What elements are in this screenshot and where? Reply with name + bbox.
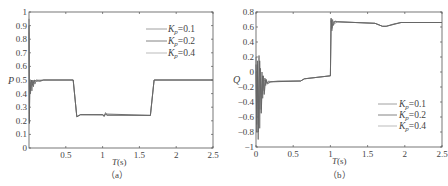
y-tick-label: 0.8 (16, 34, 28, 44)
x-tick-label: 1.5 (134, 150, 146, 160)
y-tick-label: 0.4 (16, 89, 28, 99)
y-tick-label: 0.1 (16, 129, 27, 139)
chart-b-legend: Kp=0.1 Kp=0.2 Kp=0.4 (378, 99, 426, 133)
y-tick-label: 0.5 (16, 75, 28, 85)
y-tick-label: 0 (23, 143, 28, 153)
chart-b-y-label: Q (233, 74, 241, 85)
legend-label-kp-0.1: Kp=0.1 (167, 24, 195, 36)
y-tick-label: −1 (244, 142, 254, 152)
x-tick-label: 2 (403, 149, 408, 159)
chart-b-x-axis: 00.511.522.5 (254, 12, 448, 159)
chart-a-caption: （a） (106, 170, 128, 180)
y-tick-label: 0.2 (243, 52, 254, 62)
legend-label-kp-0.4: Kp=0.4 (398, 121, 426, 133)
x-tick-label: 0.5 (288, 149, 300, 159)
x-tick-label: 0.5 (60, 150, 72, 160)
y-tick-label: −0.4 (238, 97, 255, 107)
chart-b-caption: （b） (328, 170, 351, 180)
figure: 00.10.20.30.40.50.60.70.80.91 0.511.522.… (0, 0, 448, 186)
x-tick-label: 1.5 (362, 149, 374, 159)
y-tick-label: 0.3 (16, 102, 28, 112)
y-tick-label: 0.6 (243, 22, 255, 32)
series-line-kp-0.1 (29, 19, 213, 121)
y-tick-label: −0.6 (238, 112, 255, 122)
legend-label-kp-0.4: Kp=0.4 (167, 48, 195, 60)
chart-a-x-label: T(s) (112, 157, 127, 167)
chart-a-series (29, 19, 213, 124)
y-tick-label: 0.7 (16, 48, 28, 58)
x-tick-label: 1 (100, 150, 105, 160)
x-tick-label: 2.5 (207, 150, 219, 160)
chart-b: −1−0.8−0.6−0.4−0.200.20.40.60.8 00.511.5… (233, 7, 448, 180)
y-tick-label: 0.4 (243, 37, 255, 47)
y-tick-label: 0.2 (16, 116, 27, 126)
y-tick-label: 0.8 (243, 7, 255, 17)
y-tick-label: 1 (23, 7, 28, 17)
chart-b-x-label: T(s) (332, 156, 347, 166)
x-tick-label: 0 (254, 149, 259, 159)
y-tick-label: −0.8 (238, 127, 255, 137)
x-tick-label: 2.5 (436, 149, 448, 159)
y-tick-label: 0.6 (16, 61, 28, 71)
chart-a-x-axis: 0.511.522.5 (60, 12, 219, 160)
y-tick-label: 0.9 (16, 21, 28, 31)
chart-a: 00.10.20.30.40.50.60.70.80.91 0.511.522.… (7, 7, 219, 180)
legend-label-kp-0.2: Kp=0.2 (167, 36, 195, 48)
chart-a-legend: Kp=0.1 Kp=0.2 Kp=0.4 (146, 24, 195, 60)
y-tick-label: 0 (250, 67, 255, 77)
chart-a-y-label: P (7, 75, 14, 86)
x-tick-label: 2 (174, 150, 179, 160)
